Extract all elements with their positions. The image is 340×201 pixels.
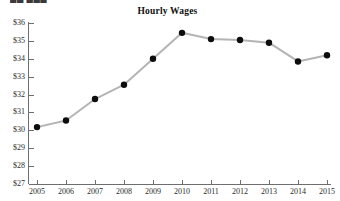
wage-data-markers xyxy=(34,30,330,131)
x-tick-label: 2008 xyxy=(109,188,139,196)
x-tick-label: 2014 xyxy=(283,188,313,196)
y-tick-label-wrap: $36 xyxy=(0,19,25,27)
data-point-2008 xyxy=(121,82,127,88)
y-tick-label-wrap: $30 xyxy=(0,126,25,134)
data-point-2011 xyxy=(208,36,214,42)
y-tick-label-wrap: $32 xyxy=(0,91,25,99)
y-tick-label-wrap: $33 xyxy=(0,73,25,81)
data-point-2007 xyxy=(92,96,98,102)
y-tick-label-wrap: $28 xyxy=(0,162,25,170)
x-tick-label: 2009 xyxy=(138,188,168,196)
y-tick-label: $27 xyxy=(13,180,25,188)
axes xyxy=(29,22,332,185)
y-tick-label: $35 xyxy=(13,37,25,45)
x-tick-label: 2007 xyxy=(80,188,110,196)
y-tick-label-wrap: $35 xyxy=(0,37,25,45)
x-tick-label: 2005 xyxy=(22,188,52,196)
y-tick-label-wrap: $34 xyxy=(0,55,25,63)
y-tick-label: $32 xyxy=(13,91,25,99)
y-tick-label-wrap: $27 xyxy=(0,180,25,188)
data-point-2012 xyxy=(237,37,243,43)
x-tick-label: 2010 xyxy=(167,188,197,196)
y-tick-label: $28 xyxy=(13,162,25,170)
data-point-2005 xyxy=(34,124,40,130)
y-tick-label-wrap: $29 xyxy=(0,144,25,152)
wage-line-series xyxy=(37,33,327,127)
x-tick-label: 2011 xyxy=(196,188,226,196)
y-tick-label: $29 xyxy=(13,144,25,152)
x-tick-label: 2006 xyxy=(51,188,81,196)
data-point-2006 xyxy=(63,117,69,123)
y-tick-marks xyxy=(29,24,34,185)
y-tick-label: $30 xyxy=(13,126,25,134)
y-tick-label: $33 xyxy=(13,73,25,81)
data-point-2009 xyxy=(150,56,156,62)
data-point-2013 xyxy=(266,39,272,45)
x-tick-label: 2013 xyxy=(254,188,284,196)
x-tick-label: 2012 xyxy=(225,188,255,196)
data-point-2014 xyxy=(295,58,301,64)
y-tick-label-wrap: $31 xyxy=(0,108,25,116)
data-point-2010 xyxy=(179,30,185,36)
y-tick-label: $31 xyxy=(13,108,25,116)
x-tick-marks xyxy=(38,180,328,185)
y-tick-label: $36 xyxy=(13,19,25,27)
y-tick-label: $34 xyxy=(13,55,25,63)
data-point-2015 xyxy=(324,52,330,58)
x-tick-label: 2015 xyxy=(312,188,340,196)
